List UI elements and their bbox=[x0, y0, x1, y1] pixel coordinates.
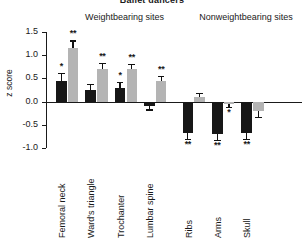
y-tick-label: 1.5 bbox=[8, 27, 38, 36]
significance-marker: ** bbox=[154, 66, 168, 72]
x-category-label: Ward's triangle bbox=[86, 179, 96, 238]
bar-black bbox=[183, 102, 194, 134]
bar-gray bbox=[68, 48, 79, 101]
significance-marker: ** bbox=[95, 53, 109, 59]
y-tick-label: 0.5 bbox=[8, 73, 38, 82]
significance-marker: ** bbox=[66, 30, 80, 36]
x-category-label: Ribs bbox=[184, 220, 194, 238]
bar-gray bbox=[127, 69, 138, 101]
error-bar-cap bbox=[146, 109, 153, 110]
error-bar-cap bbox=[158, 76, 165, 77]
bar-gray bbox=[97, 69, 108, 101]
significance-marker: ** bbox=[125, 54, 139, 60]
bar-black bbox=[241, 102, 252, 134]
significance-marker: * bbox=[222, 109, 236, 115]
bar-black bbox=[56, 81, 67, 102]
chart-title: Ballet dancers bbox=[0, 0, 304, 5]
bar-gray bbox=[156, 81, 167, 102]
x-category-label: Arms bbox=[213, 217, 223, 238]
error-bar-cap bbox=[117, 82, 124, 83]
group-header-weightbearing: Weightbearing sites bbox=[62, 12, 187, 22]
error-bar-cap bbox=[128, 64, 135, 65]
bar-black bbox=[212, 102, 223, 134]
error-bar-cap bbox=[87, 84, 94, 85]
bar-gray bbox=[194, 97, 205, 101]
error-bar-cap bbox=[58, 73, 65, 74]
y-tick-label: -0.5 bbox=[8, 120, 38, 129]
x-category-label: Femoral neck bbox=[57, 183, 67, 238]
x-category-label: Lumbar spine bbox=[145, 183, 155, 238]
bar-black bbox=[85, 90, 96, 102]
error-bar-cap bbox=[99, 63, 106, 64]
error-bar-cap bbox=[255, 117, 262, 118]
x-category-label: Skull bbox=[242, 218, 252, 238]
significance-marker: * bbox=[54, 63, 68, 69]
error-bar-cap bbox=[70, 40, 77, 41]
error-bar-cap bbox=[196, 93, 203, 94]
group-header-nonweightbearing: Nonweightbearing sites bbox=[190, 12, 302, 22]
significance-marker: ** bbox=[210, 142, 224, 148]
y-tick-label: -1.0 bbox=[8, 143, 38, 152]
significance-marker: ** bbox=[181, 141, 195, 147]
y-axis-line bbox=[46, 32, 47, 148]
bar-black bbox=[115, 88, 126, 102]
significance-marker: * bbox=[113, 72, 127, 78]
x-category-label: Trochanter bbox=[116, 195, 126, 238]
significance-marker: ** bbox=[240, 141, 254, 147]
zero-baseline bbox=[46, 102, 302, 104]
y-tick-label: 1.0 bbox=[8, 50, 38, 59]
y-tick-label: 0.0 bbox=[8, 97, 38, 106]
bar-gray bbox=[253, 102, 264, 111]
y-tick-mark bbox=[42, 148, 46, 149]
chart-figure: Ballet dancers Weightbearing sites Nonwe… bbox=[0, 0, 304, 245]
